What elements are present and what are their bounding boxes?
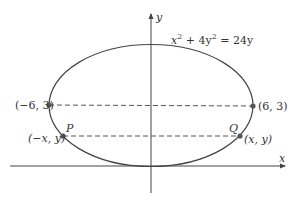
- x-axis-label: x: [279, 152, 286, 165]
- ellipse-diagram: y x x2 + 4y2 = 24y (−6, 3) (6, 3) P (−x,…: [0, 0, 292, 206]
- equation-label: x2 + 4y2 = 24y: [171, 32, 254, 47]
- label-p-name: P: [65, 122, 74, 135]
- point-right-vertex: [250, 103, 255, 108]
- label-p-coords: (−x, y): [28, 132, 65, 145]
- equation-middle: + 4y: [182, 34, 212, 47]
- label-q-name: Q: [229, 122, 238, 135]
- label-left-vertex: (−6, 3): [15, 99, 54, 112]
- point-q: [237, 133, 242, 138]
- label-q-coords: (x, y): [244, 133, 272, 146]
- y-axis-label: y: [155, 11, 163, 24]
- label-right-vertex: (6, 3): [258, 100, 288, 113]
- equation-suffix: = 24y: [217, 34, 254, 47]
